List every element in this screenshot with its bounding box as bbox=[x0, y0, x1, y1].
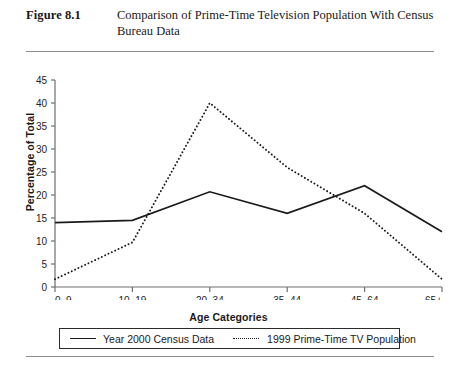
y-axis-tick: 35 bbox=[36, 121, 48, 132]
caption-divider-top bbox=[26, 51, 434, 52]
line-chart: 0510152025303540450–910–1920–3435–4445–6… bbox=[0, 60, 457, 300]
figure-title: Comparison of Prime-Time Television Popu… bbox=[117, 8, 434, 39]
series-line-tv bbox=[55, 103, 442, 279]
y-axis-tick: 0 bbox=[41, 282, 47, 293]
x-axis-tick: 0–9 bbox=[55, 295, 72, 300]
figure-number: Figure 8.1 bbox=[26, 8, 81, 23]
y-axis-tick: 30 bbox=[36, 144, 48, 155]
chart-legend: Year 2000 Census Data 1999 Prime-Time TV… bbox=[59, 328, 400, 349]
x-axis-tick: 45–64 bbox=[351, 295, 379, 300]
solid-line-icon bbox=[70, 338, 96, 339]
chart-plot-area: Percentage of Total 0510152025303540450–… bbox=[0, 60, 457, 300]
x-axis-label: Age Categories bbox=[0, 311, 457, 323]
x-axis-tick: 65+ bbox=[425, 295, 442, 300]
x-axis-tick: 35–44 bbox=[273, 295, 301, 300]
legend-label-census: Year 2000 Census Data bbox=[103, 333, 214, 345]
legend-label-tv: 1999 Prime-Time TV Population bbox=[267, 333, 416, 345]
legend-item-tv: 1999 Prime-Time TV Population bbox=[233, 333, 416, 345]
y-axis-tick: 25 bbox=[36, 167, 48, 178]
y-axis-tick: 5 bbox=[41, 259, 47, 270]
series-line-census bbox=[55, 186, 442, 232]
figure-caption: Figure 8.1 Comparison of Prime-Time Tele… bbox=[26, 8, 434, 39]
y-axis-tick: 45 bbox=[36, 75, 48, 86]
y-axis-tick: 40 bbox=[36, 98, 48, 109]
dotted-line-icon bbox=[233, 338, 259, 339]
y-axis-tick: 10 bbox=[36, 236, 48, 247]
x-axis-tick: 20–34 bbox=[196, 295, 224, 300]
figure-divider-bottom bbox=[26, 356, 434, 357]
y-axis-tick: 15 bbox=[36, 213, 48, 224]
y-axis-tick: 20 bbox=[36, 190, 48, 201]
x-axis-tick: 10–19 bbox=[118, 295, 146, 300]
legend-item-census: Year 2000 Census Data bbox=[70, 333, 214, 345]
